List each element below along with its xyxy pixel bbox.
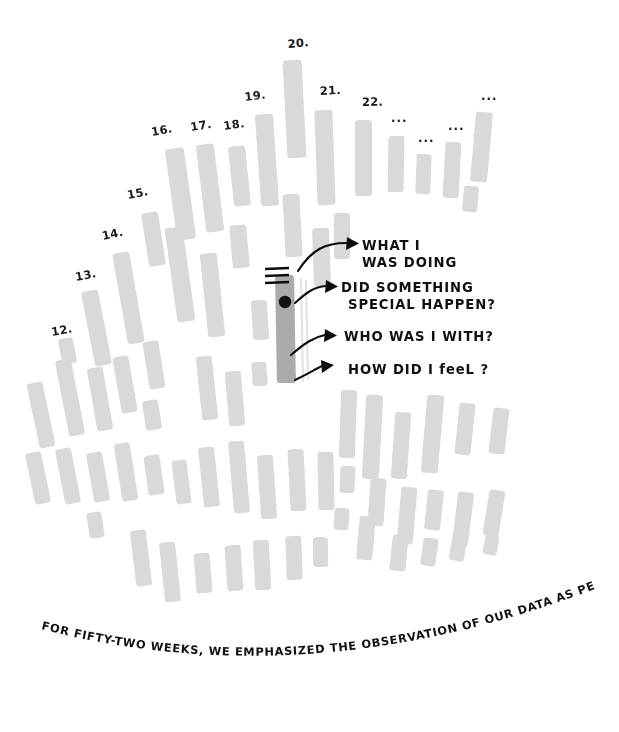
bar	[171, 459, 191, 505]
bar	[388, 136, 405, 192]
arrow-who-was-i-with	[291, 329, 337, 355]
bar	[228, 145, 251, 206]
highlighted-bar	[275, 275, 296, 383]
bar	[193, 552, 212, 593]
bar	[285, 536, 303, 581]
annotation-did-something-special-happen-line2: SPECIAL HAPPEN?	[348, 297, 496, 312]
bar	[196, 355, 219, 420]
bar	[143, 454, 164, 496]
bar	[339, 390, 357, 459]
bar	[470, 111, 493, 182]
week-label-12: 12.	[50, 321, 73, 338]
bar	[159, 541, 181, 602]
bar	[112, 355, 138, 414]
bar	[200, 252, 226, 337]
week-label-21: 21.	[319, 83, 341, 98]
bar	[483, 489, 506, 537]
bar	[225, 370, 246, 426]
bar	[488, 407, 509, 455]
week-label-19: 19.	[244, 87, 267, 103]
bar	[282, 194, 302, 258]
annotation-what-i-was-doing-line2: WAS DOING	[362, 255, 457, 270]
bar	[339, 466, 355, 494]
ellipsis-marker: ...	[481, 89, 498, 103]
bar	[251, 299, 270, 340]
bar	[196, 143, 225, 233]
bar	[356, 515, 376, 560]
bar	[228, 440, 250, 513]
week-label-14: 14.	[101, 225, 125, 243]
bar	[443, 142, 462, 199]
callout-labels: WHAT I WAS DOING DID SOMETHING SPECIAL H…	[341, 238, 496, 377]
bar	[25, 451, 51, 505]
annotation-what-i-was-doing-line1: WHAT I	[362, 238, 421, 253]
arrow-how-did-i-feel	[295, 360, 334, 380]
bar	[334, 213, 350, 259]
bar	[55, 447, 81, 505]
figure-canvas: WHAT I WAS DOING DID SOMETHING SPECIAL H…	[0, 0, 619, 732]
bar	[229, 224, 250, 268]
week-label-13: 13.	[74, 266, 98, 284]
bar	[198, 446, 220, 507]
bar	[462, 185, 479, 212]
bar	[164, 226, 195, 323]
bar	[314, 110, 335, 206]
week-label-18: 18.	[222, 116, 245, 133]
bar	[287, 449, 306, 512]
bar	[482, 534, 500, 556]
bar	[420, 537, 439, 567]
bar	[312, 228, 331, 287]
bar	[449, 530, 469, 562]
week-label-22: 22.	[362, 95, 384, 109]
bar	[362, 395, 383, 480]
bar	[86, 451, 110, 503]
bar	[253, 540, 272, 591]
bar	[317, 452, 334, 510]
bar	[391, 412, 412, 480]
bar	[224, 544, 243, 591]
bar	[86, 511, 105, 539]
annotation-who-was-i-with: WHO WAS I WITH?	[344, 329, 494, 344]
ellipsis-marker: ...	[391, 111, 408, 125]
bar	[454, 402, 475, 455]
bar	[55, 358, 85, 437]
bar	[142, 340, 165, 390]
week-label-20: 20.	[287, 35, 309, 51]
ellipsis-marker: ...	[418, 131, 435, 145]
bar	[333, 508, 349, 531]
hand-drawn-radial-bar-chart: WHAT I WAS DOING DID SOMETHING SPECIAL H…	[0, 0, 619, 732]
annotation-how-did-i-feel: HOW DID I feeL ?	[348, 362, 489, 377]
bar	[424, 489, 444, 530]
ellipsis-marker: ...	[448, 119, 465, 133]
week-label-17: 17.	[189, 117, 212, 134]
bar	[355, 120, 372, 196]
bar	[415, 154, 431, 194]
bar	[142, 399, 162, 431]
bar	[165, 147, 197, 241]
bar	[26, 381, 55, 449]
bar	[251, 362, 268, 387]
bar	[255, 113, 279, 206]
bar	[130, 529, 153, 587]
annotation-did-something-special-happen-line1: DID SOMETHING	[341, 280, 474, 295]
bar	[313, 537, 329, 567]
bar	[257, 455, 277, 520]
bar	[114, 442, 139, 502]
bar	[389, 534, 409, 571]
bar	[87, 366, 114, 432]
bar	[421, 394, 445, 473]
week-label-16: 16.	[150, 121, 173, 138]
bar	[141, 211, 166, 267]
week-label-15: 15.	[126, 184, 150, 202]
highlight-dot-marker	[279, 296, 291, 308]
bar	[81, 289, 112, 367]
bar	[282, 60, 306, 159]
bar	[112, 251, 145, 345]
